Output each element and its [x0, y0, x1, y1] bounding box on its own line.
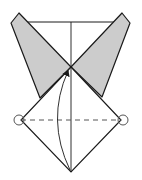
origami-diagram	[0, 0, 142, 180]
